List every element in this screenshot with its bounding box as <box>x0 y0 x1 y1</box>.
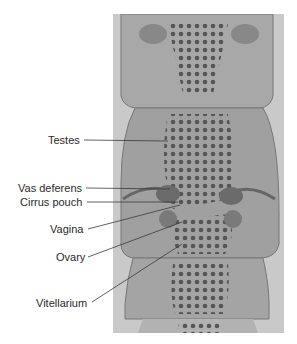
micrograph-panel <box>113 14 284 333</box>
label-testes: Testes <box>48 134 80 146</box>
label-ovary: Ovary <box>56 251 85 263</box>
label-vitellarium: Vitellarium <box>36 297 87 309</box>
label-vas-deferens: Vas deferens <box>18 182 82 194</box>
label-cirrus-pouch: Cirrus pouch <box>20 196 82 208</box>
proglottid-illustration <box>113 14 284 333</box>
label-vagina: Vagina <box>50 223 83 235</box>
